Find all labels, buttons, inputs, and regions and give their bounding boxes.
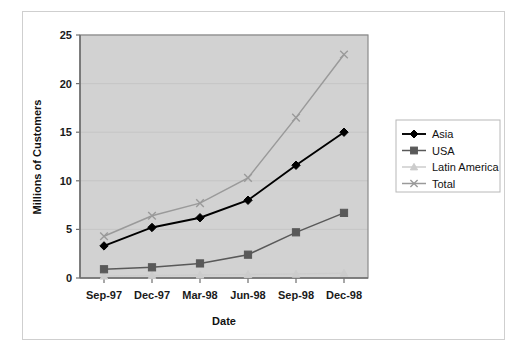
marker-square xyxy=(244,251,251,258)
y-tick-label: 15 xyxy=(60,126,72,138)
plot-area-background xyxy=(80,35,368,278)
y-axis-ticks: 0510152025 xyxy=(60,29,80,284)
x-tick-label: Jun-98 xyxy=(230,289,265,301)
chart-canvas: 0510152025 Sep-97Dec-97Mar-98Jun-98Sep-9… xyxy=(0,0,528,362)
x-axis-title: Date xyxy=(212,315,236,327)
x-tick-label: Mar-98 xyxy=(182,289,217,301)
x-axis-ticks: Sep-97Dec-97Mar-98Jun-98Sep-98Dec-98 xyxy=(86,278,362,301)
legend-label: Asia xyxy=(432,128,454,140)
y-tick-label: 5 xyxy=(66,223,72,235)
legend-label: Latin America xyxy=(432,161,500,173)
marker-square xyxy=(100,266,107,273)
legend-label: USA xyxy=(432,145,455,157)
marker-square xyxy=(292,229,299,236)
y-axis-title: Millions of Customers xyxy=(31,100,43,215)
marker-square xyxy=(196,260,203,267)
marker-square xyxy=(340,209,347,216)
x-tick-label: Sep-98 xyxy=(278,289,314,301)
marker-square xyxy=(148,264,155,271)
y-tick-label: 10 xyxy=(60,175,72,187)
y-tick-label: 0 xyxy=(66,272,72,284)
x-tick-label: Dec-97 xyxy=(134,289,170,301)
y-tick-label: 25 xyxy=(60,29,72,41)
line-chart: 0510152025 Sep-97Dec-97Mar-98Jun-98Sep-9… xyxy=(0,0,528,362)
legend: AsiaUSALatin AmericaTotal xyxy=(396,120,500,192)
legend-label: Total xyxy=(432,178,455,190)
x-tick-label: Sep-97 xyxy=(86,289,122,301)
y-tick-label: 20 xyxy=(60,78,72,90)
x-tick-label: Dec-98 xyxy=(326,289,362,301)
marker-square xyxy=(411,147,418,154)
